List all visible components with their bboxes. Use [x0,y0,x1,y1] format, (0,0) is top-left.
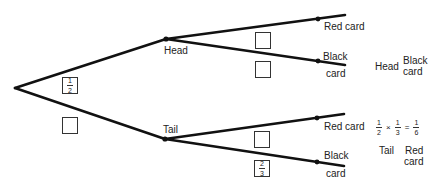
prob-box-tail-black[interactable]: 2 3 [254,160,270,177]
prob-box-head-red[interactable] [255,32,271,49]
node-head-black [316,59,321,64]
fraction-bar [376,127,382,128]
numerator: 1 [414,119,418,126]
label-tail-red-card: Red card [324,121,365,132]
outcome-tail-word: Tail [379,145,394,156]
fraction-bar [395,127,401,128]
numerator: 1 [396,119,400,126]
numerator: 1 [68,77,72,84]
node-head-red [316,17,321,22]
label-head: Head [164,45,188,56]
denominator: 2 [377,129,381,136]
prob-box-head-black[interactable] [255,61,271,78]
label-tail-black-card: card [326,168,345,179]
branch-root-tail [15,88,165,139]
numerator: 1 [377,119,381,126]
denominator: 3 [260,170,264,177]
outcome-card-word: card [403,66,422,77]
node-tail [162,136,167,141]
label-tail: Tail [163,124,178,135]
outcome-black-word: Black [403,55,427,66]
fraction-bar [67,85,73,86]
node-tail-black [315,160,320,165]
fraction-c: 1 6 [413,119,419,136]
prob-box-head[interactable]: 1 2 [62,77,78,94]
tree-branches [0,0,433,188]
fraction: 2 3 [259,160,265,177]
denominator: 2 [68,87,72,94]
denominator: 3 [396,129,400,136]
label-head-black: Black [323,51,347,62]
prob-box-tail[interactable] [62,117,78,134]
outcome-formula: 1 2 × 1 3 = 1 6 [376,119,419,136]
prob-box-tail-red[interactable] [254,131,270,148]
fraction-b: 1 3 [395,119,401,136]
times-sign: × [386,123,391,132]
outcome-card-word-2: card [404,156,423,167]
fraction-bar [259,168,265,169]
denominator: 6 [414,129,418,136]
branch-root-head [15,39,166,88]
equals-sign: = [405,123,410,132]
outcome-head-word: Head [375,61,399,72]
node-head [163,36,168,41]
numerator: 2 [260,160,264,167]
outcome-red-word: Red [405,145,423,156]
fraction: 1 2 [67,77,73,94]
label-head-black-card: card [326,68,345,79]
node-tail-red [315,116,320,121]
fraction-bar [413,127,419,128]
fraction-a: 1 2 [376,119,382,136]
label-head-red-card: Red card [324,21,365,32]
label-tail-black: Black [324,150,348,161]
